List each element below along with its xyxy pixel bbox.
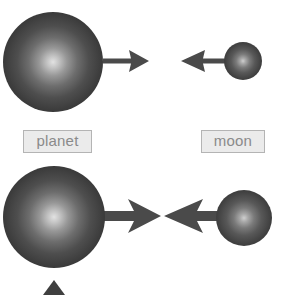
planet-label: planet <box>23 130 92 153</box>
planet-sphere <box>3 166 105 268</box>
bottom-row-group <box>3 166 272 268</box>
planet-sphere <box>3 12 103 112</box>
force-diagram-figure: planet moon <box>0 0 282 296</box>
moon-sphere <box>216 190 272 246</box>
moon-label: moon <box>201 130 265 153</box>
planet-force-arrow <box>103 50 149 72</box>
center-of-mass-marker <box>43 280 65 295</box>
planet-force-arrow <box>100 199 161 233</box>
moon-sphere <box>224 42 262 80</box>
top-row-group <box>3 12 262 112</box>
